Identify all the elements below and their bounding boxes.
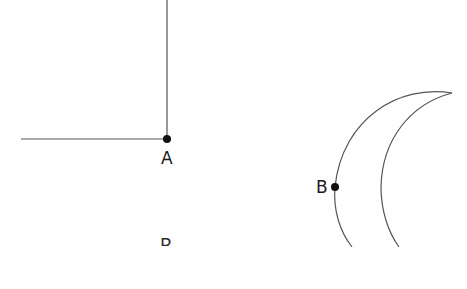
figure-svg bbox=[0, 0, 467, 289]
point-a-dot bbox=[163, 135, 171, 143]
clipped-label-fragment: B bbox=[160, 238, 176, 246]
diagram-canvas: A B B bbox=[0, 0, 467, 289]
clipped-label-text: B bbox=[160, 238, 172, 246]
crescent-inner-arc bbox=[381, 93, 452, 247]
point-a-label: A bbox=[161, 150, 173, 167]
crescent-outer-arc bbox=[335, 92, 452, 247]
point-b-dot bbox=[331, 183, 339, 191]
point-b-label: B bbox=[316, 179, 328, 196]
